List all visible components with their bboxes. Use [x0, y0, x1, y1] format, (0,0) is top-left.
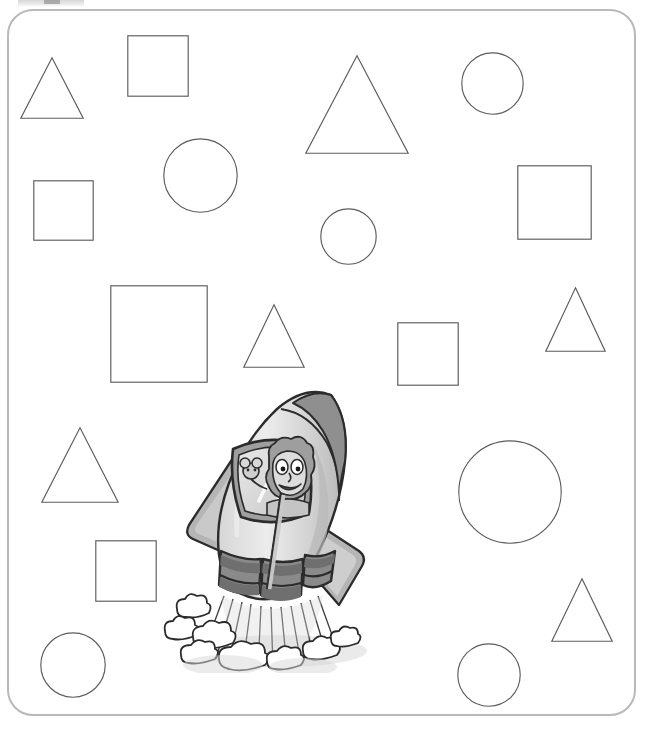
cartoon-rocket-illustration — [163, 383, 381, 673]
circle-outline — [321, 209, 376, 264]
square-shape-square-1 — [127, 35, 189, 97]
triangle-shape-triangle-4 — [545, 287, 606, 352]
triangle-shape-triangle-3 — [243, 304, 305, 368]
circle-outline — [164, 139, 237, 212]
circle-shape-circle-6 — [457, 643, 521, 707]
triangle-outline — [546, 288, 605, 351]
circle-shape-circle-2 — [163, 138, 238, 213]
square-shape-square-5 — [397, 322, 459, 386]
triangle-outline — [552, 579, 612, 641]
triangle-outline — [21, 58, 83, 118]
square-shape-square-4 — [110, 285, 208, 383]
square-outline — [518, 166, 591, 239]
circle-shape-circle-3 — [320, 208, 377, 265]
triangle-shape-triangle-6 — [551, 578, 613, 642]
square-shape-square-3 — [517, 165, 592, 240]
square-outline — [398, 323, 458, 385]
triangle-outline — [306, 56, 408, 153]
triangle-outline — [42, 428, 118, 502]
square-outline — [128, 36, 188, 96]
triangle-outline — [244, 305, 304, 367]
triangle-shape-triangle-1 — [20, 57, 84, 119]
worksheet-page — [0, 0, 652, 730]
circle-shape-circle-4 — [458, 440, 562, 544]
circle-outline — [462, 53, 523, 114]
circle-outline — [459, 441, 561, 543]
circle-shape-circle-1 — [461, 52, 524, 115]
circle-shape-circle-5 — [40, 632, 106, 698]
circle-outline — [458, 644, 520, 706]
scan-artifact-dot — [44, 0, 60, 4]
square-outline — [111, 286, 207, 382]
astronaut-character — [266, 437, 315, 518]
triangle-shape-triangle-5 — [41, 427, 119, 503]
circle-outline — [41, 633, 105, 697]
square-shape-square-2 — [33, 180, 94, 241]
square-shape-square-6 — [95, 540, 157, 602]
square-outline — [34, 181, 93, 240]
square-outline — [96, 541, 156, 601]
triangle-shape-triangle-2 — [305, 55, 409, 154]
